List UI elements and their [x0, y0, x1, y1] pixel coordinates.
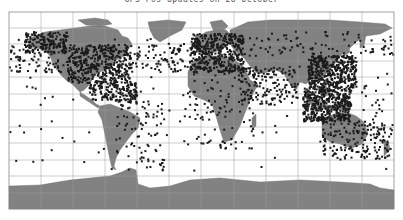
gps-point [228, 96, 230, 98]
gps-point [15, 160, 17, 162]
gps-point [49, 45, 51, 47]
gps-point [261, 40, 263, 42]
gps-point [159, 54, 161, 56]
gps-point [315, 102, 317, 104]
gps-point [279, 49, 281, 51]
gps-point [337, 67, 339, 69]
gps-point [324, 140, 326, 142]
gps-point [123, 115, 125, 117]
gps-point [364, 121, 366, 123]
gps-point [323, 111, 325, 113]
gps-point [367, 125, 369, 127]
gps-point [261, 166, 263, 168]
gps-point [72, 60, 74, 62]
gps-point [314, 116, 316, 118]
gps-point [332, 106, 334, 108]
gps-point [124, 57, 126, 59]
gps-point [295, 92, 297, 94]
gps-point [44, 48, 46, 50]
gps-point [32, 50, 34, 52]
gps-point [253, 77, 255, 79]
gps-point [291, 86, 293, 88]
gps-point [311, 67, 313, 69]
gps-point [241, 59, 243, 61]
gps-point [168, 63, 170, 65]
gps-point [121, 81, 123, 83]
gps-point [110, 48, 112, 50]
gps-point [161, 58, 163, 60]
gps-point [351, 157, 353, 159]
gps-point [197, 114, 199, 116]
gps-point [343, 105, 345, 107]
gps-point [110, 57, 112, 59]
gps-point [392, 124, 394, 126]
gps-point [39, 39, 41, 41]
gps-point [229, 111, 231, 113]
gps-point [84, 77, 86, 79]
gps-point [111, 50, 113, 52]
gps-point [330, 117, 332, 119]
gps-point [75, 76, 77, 78]
gps-point [235, 36, 237, 38]
gps-point [340, 69, 342, 71]
gps-point [118, 123, 120, 125]
gps-point [107, 45, 109, 47]
gps-point [247, 67, 249, 69]
gps-point [126, 65, 128, 67]
gps-point [332, 71, 334, 73]
gps-point [210, 69, 212, 71]
gps-point [255, 55, 257, 57]
gps-point [228, 93, 230, 95]
gps-point [127, 85, 129, 87]
gps-point [355, 81, 357, 83]
gps-point [162, 169, 164, 171]
gps-point [125, 50, 127, 52]
gps-point [323, 61, 325, 63]
gps-point [280, 91, 282, 93]
gps-point [289, 66, 291, 68]
gps-point [273, 67, 275, 69]
gps-point [222, 65, 224, 67]
gps-point [19, 56, 21, 58]
gps-point [226, 102, 228, 104]
gps-point [92, 78, 94, 80]
gps-point [333, 114, 335, 116]
gps-point [127, 101, 129, 103]
gps-point [127, 74, 129, 76]
gps-point [101, 87, 103, 89]
gps-point [42, 36, 44, 38]
gps-point [329, 65, 331, 67]
gps-point [374, 146, 376, 148]
gps-point [50, 43, 52, 45]
gps-point [212, 110, 214, 112]
gps-point [107, 50, 109, 52]
gps-point [383, 49, 385, 51]
gps-point [121, 67, 123, 69]
gps-point [202, 40, 204, 42]
gps-point [73, 45, 75, 47]
gps-point [340, 159, 342, 161]
gps-point [276, 68, 278, 70]
gps-point [353, 138, 355, 140]
gps-point [81, 66, 83, 68]
gps-point [55, 38, 57, 40]
gps-point [330, 132, 332, 134]
gps-point [322, 58, 324, 60]
gps-point [317, 56, 319, 58]
gps-point [349, 102, 351, 104]
gps-point [391, 129, 393, 131]
gps-point [193, 170, 195, 172]
gps-point [356, 145, 358, 147]
gps-point [155, 54, 157, 56]
gps-point [310, 94, 312, 96]
gps-point [316, 112, 318, 114]
gps-point [354, 83, 356, 85]
gps-point [330, 123, 332, 125]
gps-point [365, 85, 367, 87]
gps-point [87, 72, 89, 74]
gps-point [348, 80, 350, 82]
gps-point [159, 64, 161, 66]
gps-point [216, 37, 218, 39]
gps-point [90, 88, 92, 90]
gps-point [203, 48, 205, 50]
